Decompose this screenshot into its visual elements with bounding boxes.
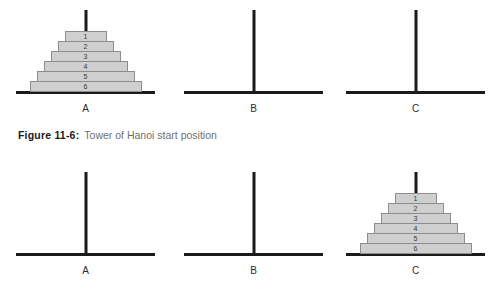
peg-row-goal-position: AB123456C: [0, 168, 498, 278]
disc[interactable]: 6: [360, 243, 472, 254]
peg-label: A: [8, 265, 163, 276]
figure-caption-text: Tower of Hanoi start position: [84, 129, 216, 141]
peg-label: C: [338, 265, 493, 276]
disc[interactable]: 6: [30, 81, 142, 92]
peg-label: A: [8, 103, 163, 114]
peg-rod: [84, 172, 87, 254]
peg-rod: [252, 172, 255, 254]
peg-c[interactable]: C: [338, 6, 493, 116]
disc-stack: 123456: [338, 193, 493, 253]
peg-rod: [414, 10, 417, 92]
peg-base: [184, 253, 323, 256]
peg-row-start-position: 123456ABC: [0, 6, 498, 116]
peg-b[interactable]: B: [176, 168, 331, 278]
peg-a[interactable]: A: [8, 168, 163, 278]
peg-base: [346, 91, 485, 94]
peg-base: [16, 253, 155, 256]
peg-a[interactable]: 123456A: [8, 6, 163, 116]
figure-caption-label: Figure 11-6:: [18, 129, 79, 141]
figure-caption: Figure 11-6:Tower of Hanoi start positio…: [18, 129, 217, 141]
peg-label: C: [338, 103, 493, 114]
peg-c[interactable]: 123456C: [338, 168, 493, 278]
disc-stack: 123456: [8, 31, 163, 91]
peg-base: [184, 91, 323, 94]
peg-rod: [252, 10, 255, 92]
peg-label: B: [176, 265, 331, 276]
tower-of-hanoi-figure: 123456ABC Figure 11-6:Tower of Hanoi sta…: [0, 0, 498, 284]
peg-label: B: [176, 103, 331, 114]
peg-b[interactable]: B: [176, 6, 331, 116]
